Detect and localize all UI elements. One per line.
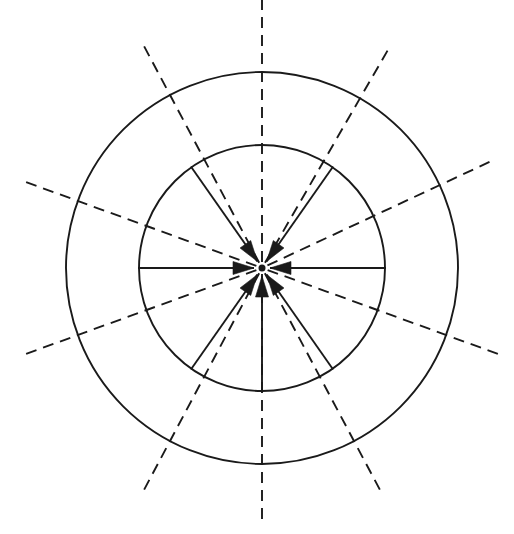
convergence-point-group xyxy=(259,265,266,272)
radial-convergence-diagram xyxy=(0,0,514,534)
background xyxy=(0,0,514,534)
figure-canvas xyxy=(0,0,514,534)
convergence-point xyxy=(259,265,266,272)
